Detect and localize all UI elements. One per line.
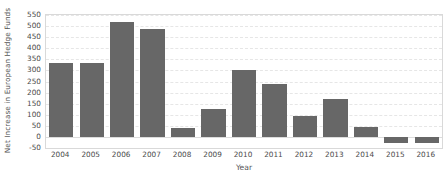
bar <box>49 63 73 137</box>
bar <box>201 109 225 137</box>
zero-baseline <box>46 137 442 138</box>
x-tick-label: 2013 <box>325 150 344 159</box>
y-tick-label: 500 <box>27 21 41 30</box>
y-axis-title-text: Net Increase in European Hedge Funds <box>4 7 13 153</box>
bar-chart: Net Increase in European Hedge Funds 550… <box>0 0 448 192</box>
y-axis-tick-labels: 550500450400350300250200150100500-50 <box>16 0 44 192</box>
y-tick-label: 50 <box>32 120 41 129</box>
y-tick-label: -50 <box>29 143 41 152</box>
x-tick-label: 2007 <box>142 150 161 159</box>
x-tick-label: 2015 <box>386 150 405 159</box>
bar <box>110 22 134 137</box>
x-tick-label: 2005 <box>81 150 100 159</box>
bar <box>232 70 256 137</box>
y-tick-label: 450 <box>27 32 41 41</box>
bar <box>171 128 195 137</box>
bar <box>384 137 408 143</box>
bar <box>140 29 164 137</box>
plot-area <box>45 14 443 149</box>
y-tick-label: 0 <box>36 131 41 140</box>
x-tick-label: 2016 <box>416 150 435 159</box>
x-axis-title: Year <box>45 163 443 172</box>
x-tick-label: 2004 <box>51 150 70 159</box>
y-tick-label: 550 <box>27 10 41 19</box>
y-axis-title: Net Increase in European Hedge Funds <box>0 0 16 160</box>
x-tick-label: 2006 <box>112 150 131 159</box>
x-tick-label: 2008 <box>173 150 192 159</box>
x-axis-tick-labels: 2004200520062007200820092010201120122013… <box>45 150 443 162</box>
bar <box>354 127 378 137</box>
x-tick-label: 2012 <box>295 150 314 159</box>
gridline <box>46 148 442 149</box>
y-tick-label: 350 <box>27 54 41 63</box>
bar <box>415 137 439 143</box>
x-tick-label: 2009 <box>203 150 222 159</box>
y-tick-label: 250 <box>27 76 41 85</box>
gridline <box>46 26 442 27</box>
x-tick-label: 2010 <box>234 150 253 159</box>
x-tick-label: 2014 <box>356 150 375 159</box>
gridline <box>46 15 442 16</box>
bar <box>323 99 347 137</box>
bar <box>262 84 286 137</box>
bar <box>80 63 104 137</box>
y-tick-label: 400 <box>27 43 41 52</box>
gridline <box>46 59 442 60</box>
gridline <box>46 37 442 38</box>
bar <box>293 116 317 137</box>
y-tick-label: 150 <box>27 98 41 107</box>
y-tick-label: 200 <box>27 87 41 96</box>
gridline <box>46 48 442 49</box>
y-tick-label: 100 <box>27 109 41 118</box>
x-tick-label: 2011 <box>264 150 283 159</box>
y-tick-label: 300 <box>27 65 41 74</box>
